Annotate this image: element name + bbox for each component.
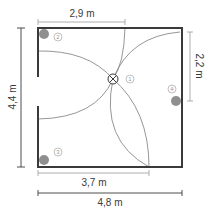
svg-text:3: 3 (56, 149, 60, 155)
dimension-bottom-inner: 3,7 m (81, 177, 106, 188)
dimension-lines-dark (17, 28, 182, 196)
marker-label-1: 1 (126, 75, 134, 83)
dimension-top: 2,9 m (69, 8, 94, 19)
dimension-bottom-outer: 4,8 m (97, 197, 122, 208)
arc-left-lower-to-center (38, 79, 113, 119)
ceiling-light-symbol (108, 74, 118, 84)
dimension-right: 2,2 m (194, 53, 205, 78)
svg-text:1: 1 (128, 76, 132, 82)
svg-text:4: 4 (170, 86, 174, 92)
svg-text:2: 2 (56, 34, 60, 40)
device-dot-2 (39, 29, 49, 39)
arc-center-to-bottom-left (110, 79, 149, 167)
dimension-left: 4,4 m (7, 84, 18, 109)
marker-label-4: 4 (168, 85, 176, 93)
floor-plan-diagram: 1 2 3 4 2,9 m 2,2 m 4,4 m (0, 0, 210, 215)
marker-label-3: 3 (54, 148, 62, 156)
arc-left-upper-to-center (38, 51, 113, 79)
marker-label-2: 2 (54, 33, 62, 41)
device-dot-4 (171, 96, 181, 106)
coverage-arcs (38, 28, 180, 167)
device-dot-3 (39, 155, 49, 165)
arc-right-top-to-center (113, 32, 180, 79)
dimension-lines (38, 19, 193, 176)
arc-top-to-center (113, 28, 125, 79)
